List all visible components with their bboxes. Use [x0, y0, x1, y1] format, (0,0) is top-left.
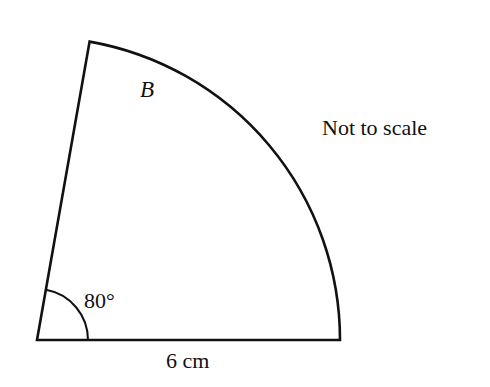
sector-label: B — [140, 77, 154, 103]
not-to-scale-note: Not to scale — [322, 115, 427, 141]
angle-arc — [46, 290, 88, 340]
radius-label: 6 cm — [166, 348, 209, 374]
sector-outline — [37, 42, 340, 340]
angle-label: 80° — [84, 288, 115, 314]
sector-diagram — [0, 0, 490, 387]
